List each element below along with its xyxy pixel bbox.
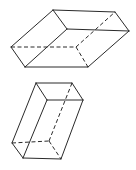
visible-edge bbox=[88, 31, 129, 67]
visible-edge bbox=[23, 100, 47, 158]
visible-edge bbox=[11, 47, 25, 67]
visible-edge bbox=[36, 83, 47, 100]
visible-edge bbox=[23, 158, 61, 159]
upright-box bbox=[12, 83, 83, 159]
visible-edge bbox=[115, 12, 129, 31]
visible-edge bbox=[67, 29, 129, 31]
figure-canvas bbox=[0, 0, 136, 170]
visible-edge bbox=[61, 100, 83, 159]
visible-edge bbox=[25, 29, 67, 67]
visible-edge bbox=[11, 10, 53, 47]
hidden-edge bbox=[49, 141, 61, 159]
visible-edge bbox=[53, 10, 67, 29]
hidden-edge bbox=[49, 83, 72, 141]
visible-edge bbox=[53, 10, 115, 12]
visible-edge bbox=[72, 83, 83, 100]
visible-edge bbox=[12, 143, 23, 158]
hidden-edge bbox=[76, 47, 88, 67]
hidden-edge bbox=[12, 141, 49, 143]
flat-box bbox=[11, 10, 129, 67]
